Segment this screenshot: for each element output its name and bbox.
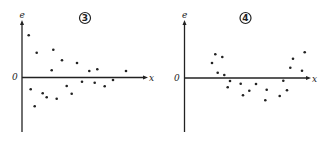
data-point [264, 99, 267, 102]
data-point [255, 83, 258, 86]
data-point [103, 85, 106, 88]
data-point [65, 85, 68, 88]
data-point [45, 96, 48, 99]
data-point [41, 92, 44, 95]
y-axis-label: e [20, 10, 25, 20]
data-point [286, 89, 289, 92]
y-axis-label: e [182, 10, 187, 20]
data-point [239, 82, 242, 85]
data-point [70, 92, 73, 95]
data-point [216, 71, 219, 74]
data-point [35, 51, 38, 54]
residual-plot-3: ex03 [12, 10, 154, 132]
data-point [33, 105, 36, 108]
data-point [265, 88, 268, 91]
data-point [226, 86, 229, 89]
data-point [211, 62, 214, 65]
x-axis-label: x [312, 74, 317, 84]
panel-number: 4 [242, 13, 248, 23]
data-point [29, 88, 32, 91]
data-point [96, 68, 99, 71]
data-point [248, 89, 251, 92]
data-point [112, 79, 115, 82]
panel-number: 3 [82, 13, 88, 23]
data-point [61, 59, 64, 62]
origin-label: 0 [12, 72, 18, 82]
y-axis-arrow-icon [20, 20, 24, 25]
x-axis-label: x [149, 73, 154, 83]
data-point [223, 74, 226, 77]
data-point [214, 53, 217, 56]
data-point [303, 51, 306, 54]
data-point [242, 94, 245, 97]
x-axis-arrow-icon [306, 76, 311, 80]
data-point [50, 69, 53, 72]
data-point [125, 70, 128, 73]
data-point [292, 57, 295, 60]
data-point [88, 70, 91, 73]
data-point [52, 48, 55, 51]
data-point [229, 80, 232, 83]
x-axis-arrow-icon [143, 76, 148, 80]
residual-plots-figure: ex03 ex04 [0, 0, 331, 145]
data-point [301, 69, 304, 72]
data-point [27, 34, 30, 37]
data-point [221, 56, 224, 59]
data-point [282, 79, 285, 82]
data-point [76, 62, 79, 65]
data-point [93, 81, 96, 84]
origin-label: 0 [174, 73, 180, 83]
data-point [289, 66, 292, 69]
residual-plot-4: ex04 [174, 10, 317, 132]
data-point [55, 97, 58, 100]
data-point [278, 95, 281, 98]
y-axis-arrow-icon [183, 20, 187, 25]
data-point [81, 80, 84, 83]
